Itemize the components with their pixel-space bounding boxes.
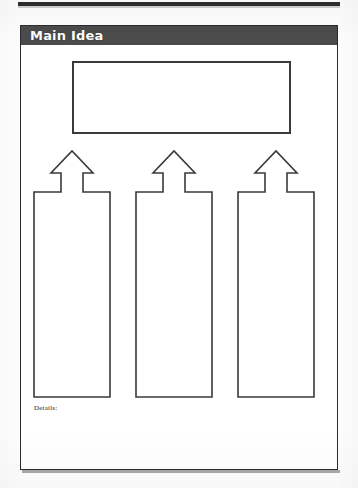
details-label: Details: [34,404,57,412]
worksheet-panel: Main Idea Details: [20,25,338,470]
panel-drop-shadow [22,470,340,473]
page-top-strip [18,2,340,6]
worksheet-canvas: Main Idea Details: [0,0,358,488]
detail-column-2-outline [136,151,212,397]
page-top-strip-shadow [18,6,340,8]
detail-column-3-outline [238,151,314,397]
main-idea-input-box[interactable] [72,61,291,134]
detail-column-1-outline [34,151,110,397]
